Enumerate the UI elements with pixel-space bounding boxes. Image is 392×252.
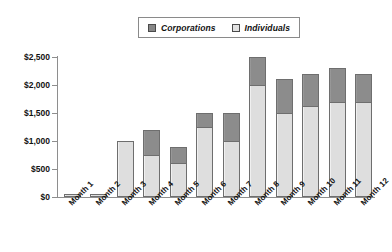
bar-segment-corporations[interactable] <box>329 68 346 102</box>
y-axis-tick-label: $0 <box>4 192 50 202</box>
bar-segment-corporations[interactable] <box>143 130 160 155</box>
y-axis-tick-label: $1,500 <box>4 108 50 118</box>
y-axis-tick-label: $2,000 <box>4 80 50 90</box>
y-axis-tick-label: $500 <box>4 164 50 174</box>
bar-segment-corporations[interactable] <box>170 147 187 164</box>
bar-segment-corporations[interactable] <box>302 74 319 106</box>
x-axis-labels: Month 1Month 2Month 3Month 4Month 5Month… <box>57 199 375 252</box>
bar-segment-corporations[interactable] <box>223 113 240 141</box>
bar-segment-corporations[interactable] <box>276 79 293 113</box>
bar-group[interactable] <box>276 79 293 197</box>
y-axis-tick-label: $2,500 <box>4 52 50 62</box>
bar-segment-corporations[interactable] <box>196 113 213 127</box>
y-axis-tick-label: $1,000 <box>4 136 50 146</box>
stacked-bar-chart: Corporations Individuals $0$500$1,000$1,… <box>0 0 392 252</box>
bar-segment-individuals[interactable] <box>249 85 266 197</box>
bar-group[interactable] <box>302 74 319 197</box>
plot-area: $0$500$1,000$1,500$2,000$2,500 Month 1Mo… <box>0 0 392 252</box>
bar-segment-corporations[interactable] <box>355 74 372 102</box>
bar-group[interactable] <box>249 57 266 197</box>
bar-segment-corporations[interactable] <box>249 57 266 85</box>
